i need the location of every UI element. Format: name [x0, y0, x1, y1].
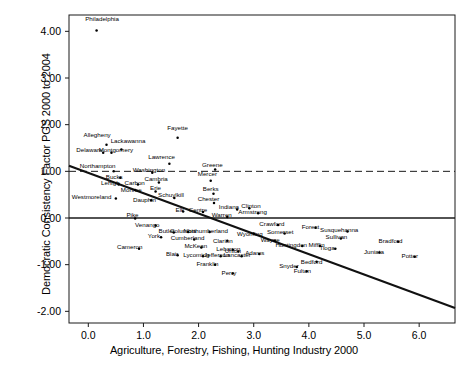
data-point[interactable]: Cameron	[117, 243, 143, 250]
point-label: Centre	[189, 206, 208, 213]
data-point[interactable]: Crawford	[259, 220, 285, 227]
data-point[interactable]: Fayette	[167, 124, 188, 139]
x-tick-label: 6.0	[412, 329, 427, 341]
point-label: Cambria	[144, 175, 168, 182]
data-point[interactable]: Susquehanna	[320, 226, 359, 233]
point-label: York	[148, 232, 161, 239]
point-label: Berks	[203, 185, 219, 192]
point-label: Pike	[126, 211, 139, 218]
data-point[interactable]: Indiana	[219, 203, 240, 211]
point-label: Crawford	[259, 220, 285, 227]
point-label: Erie	[150, 184, 162, 191]
data-point[interactable]: Franklin	[196, 260, 219, 267]
point-label: Indiana	[219, 203, 240, 210]
point-label: Mercer	[198, 170, 217, 177]
data-point[interactable]: Montgomery	[99, 146, 134, 154]
point-label: Fulton	[294, 267, 312, 274]
data-point[interactable]: Centre	[189, 206, 208, 213]
point-marker[interactable]	[95, 29, 98, 32]
data-point[interactable]: Wyoming	[237, 230, 263, 237]
data-point[interactable]: Philadelphia	[85, 15, 119, 32]
data-point[interactable]: Greene	[202, 161, 223, 171]
data-point[interactable]: Bradford	[379, 237, 403, 244]
data-point[interactable]: Sullivan	[326, 233, 348, 240]
data-point[interactable]: Warren	[212, 211, 233, 218]
point-label: Fayette	[167, 124, 188, 131]
data-point[interactable]: Dauphin	[133, 196, 157, 203]
point-label: Venango	[135, 221, 160, 228]
data-point[interactable]: Mercer	[198, 170, 217, 181]
point-label: Elk	[176, 206, 186, 213]
point-label: Philadelphia	[85, 15, 119, 22]
point-label: Lackawanna	[111, 137, 146, 144]
point-label: Sullivan	[326, 233, 348, 240]
point-label: Forest	[302, 223, 320, 230]
plot-canvas: 4.003.002.001.000.00-1.00-2.000.01.02.03…	[0, 0, 468, 375]
y-axis-title: Democratic Consistency Factor PGS 2000 t…	[40, 24, 52, 324]
point-marker[interactable]	[209, 179, 212, 182]
point-label: Wyoming	[237, 230, 263, 237]
point-label: Montgomery	[99, 146, 134, 153]
data-point[interactable]: Adams	[245, 249, 264, 256]
point-label: Bradford	[379, 237, 403, 244]
data-point[interactable]: Forest	[302, 223, 320, 230]
point-label: Bedford	[301, 258, 323, 265]
point-label: Washington	[133, 166, 166, 173]
point-label: Schuylkill	[158, 191, 184, 198]
data-point[interactable]: Bedford	[301, 258, 323, 265]
point-label: Perry	[222, 269, 238, 276]
x-tick-label: 4.0	[302, 329, 317, 341]
point-label: Susquehanna	[320, 226, 359, 233]
data-point[interactable]: Elk	[176, 206, 186, 213]
data-point[interactable]: Westmoreland	[72, 193, 117, 200]
point-label: Westmoreland	[72, 193, 112, 200]
scatter-plot-figure: 4.003.002.001.000.00-1.00-2.000.01.02.03…	[0, 0, 468, 375]
point-marker[interactable]	[168, 163, 171, 166]
point-marker[interactable]	[115, 197, 118, 200]
data-point[interactable]: Blair	[166, 250, 179, 257]
point-label: Cumberland	[171, 234, 205, 241]
data-point[interactable]: Monroe	[121, 186, 143, 193]
x-tick-label: 1.0	[136, 329, 151, 341]
data-point[interactable]: Venango	[135, 221, 160, 228]
point-label: Somerset	[267, 228, 294, 235]
point-label: Blair	[166, 250, 178, 257]
data-point[interactable]: Northumberland	[184, 227, 229, 234]
data-point[interactable]: Perry	[222, 269, 238, 276]
data-point[interactable]: Somerset	[267, 228, 294, 235]
data-point[interactable]: Berks	[203, 185, 219, 195]
data-point[interactable]: Cumberland	[171, 234, 205, 241]
point-label: Dauphin	[133, 196, 157, 203]
data-point[interactable]: Potter	[402, 252, 419, 259]
point-label: Clarion	[213, 237, 233, 244]
point-label: Greene	[202, 161, 223, 168]
data-point[interactable]: McKean	[184, 242, 207, 249]
point-label: Chester	[198, 195, 220, 202]
point-label: Franklin	[196, 260, 219, 267]
data-point[interactable]: Cambria	[144, 175, 168, 184]
data-point[interactable]: Washington	[133, 166, 166, 174]
point-label: Armstrong	[238, 208, 267, 215]
data-point[interactable]: Schuylkill	[158, 191, 184, 199]
point-label: Lawrence	[148, 153, 175, 160]
data-point[interactable]: Clarion	[213, 237, 233, 244]
data-point[interactable]: Armstrong	[238, 208, 267, 215]
data-point[interactable]: Chester	[198, 195, 220, 204]
x-tick-label: 0.0	[81, 329, 96, 341]
point-marker[interactable]	[176, 136, 179, 139]
point-label: Warren	[212, 211, 233, 218]
data-point[interactable]: Fulton	[294, 267, 312, 274]
data-point[interactable]: Lawrence	[148, 153, 175, 165]
point-label: Juniata	[364, 248, 385, 255]
point-label: Huntingdon	[275, 241, 307, 248]
point-label: Adams	[245, 249, 264, 256]
x-tick-label: 3.0	[246, 329, 261, 341]
data-point[interactable]: Allegheny	[84, 131, 112, 146]
data-point[interactable]: Tioga	[319, 244, 336, 251]
point-label: Northampton	[80, 162, 116, 169]
data-point[interactable]: Huntingdon	[275, 241, 307, 248]
point-label: Tioga	[319, 244, 335, 251]
data-point[interactable]: Juniata	[364, 248, 385, 255]
point-marker[interactable]	[160, 236, 163, 239]
data-point[interactable]: Lehigh	[101, 179, 120, 186]
